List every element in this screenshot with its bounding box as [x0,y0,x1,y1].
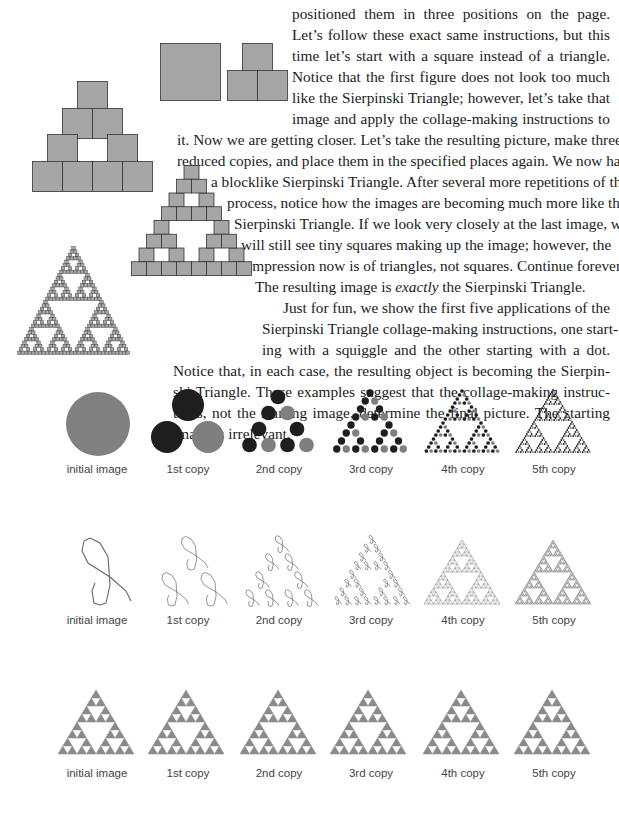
caption-dot-2nd: 2nd copy [229,463,329,475]
triangle-initial-figure [58,690,136,756]
dot-initial-figure [65,391,131,457]
caption-triangle-3rd: 3rd copy [321,767,421,779]
caption-dot-1st: 1st copy [138,463,238,475]
text-line: Sierpinski Triangle. If we look very clo… [234,215,610,233]
text-line: a blocklike Sierpinski Triangle. After s… [211,173,610,191]
dot-copy5-figure [515,389,593,455]
caption-dot-4th: 4th copy [413,463,513,475]
dot-copy4-figure [424,389,502,455]
triangle-copy2-figure [240,690,318,756]
caption-triangle-1st: 1st copy [138,767,238,779]
dot-copy2-figure [240,389,318,455]
caption-squiggle-1st: 1st copy [138,614,238,626]
text-line: it. Now we are getting closer. Let’s tak… [177,131,610,149]
squiggle-initial-figure [60,535,132,607]
caption-squiggle-5th: 5th copy [504,614,604,626]
square-copy1-figure [227,43,289,101]
caption-squiggle-3rd: 3rd copy [321,614,421,626]
squiggle-copy2-figure [240,535,320,607]
squiggle-copy4-figure [424,540,502,608]
text-line: time let’s start with a square instead o… [292,47,610,65]
squiggle-copy5-figure [515,540,593,608]
text-line: image and apply the collage-making instr… [292,110,610,128]
triangle-copy5-figure [514,690,592,756]
caption-triangle-initial: initial image [47,767,147,779]
text-line: Notice that the first figure does not lo… [292,68,610,86]
caption-squiggle-initial: initial image [47,614,147,626]
triangle-copy1-figure [148,690,226,756]
text-line: like the Sierpinski Triangle; however, l… [292,89,610,107]
triangle-copy3-figure [330,690,408,756]
dot-copy1-figure [150,389,226,455]
emphasis: exactly [395,278,438,295]
squiggle-copy1-figure [150,535,230,607]
square-copy5-figure [17,246,131,356]
text-line: The resulting image is exactly the Sierp… [255,278,586,296]
caption-squiggle-4th: 4th copy [413,614,513,626]
triangle-copy4-figure [423,690,501,756]
caption-triangle-2nd: 2nd copy [229,767,329,779]
caption-dot-3rd: 3rd copy [321,463,421,475]
square-initial-figure [160,43,222,101]
text-line: will still see tiny squares making up th… [241,236,610,254]
text-line: process, notice how the images are becom… [227,194,610,212]
square-copy3-figure [131,165,253,277]
text-line: Sierpinski Triangle collage-making instr… [262,320,610,338]
text-line: ing with a squiggle and the other starti… [262,341,610,359]
dot-copy3-figure [332,389,410,455]
text-line: impression now is of triangles, not squa… [248,257,610,275]
caption-dot-initial: initial image [47,463,147,475]
caption-triangle-4th: 4th copy [413,767,513,779]
squiggle-copy3-figure [332,535,412,607]
text-line: Notice that, in each case, the resulting… [173,362,610,380]
caption-triangle-5th: 5th copy [504,767,604,779]
text-line: Just for fun, we show the first five app… [283,299,610,317]
text-line: positioned them in three positions on th… [292,5,610,23]
caption-squiggle-2nd: 2nd copy [229,614,329,626]
text-line: Let’s follow these exact same instructio… [292,26,610,44]
caption-dot-5th: 5th copy [504,463,604,475]
